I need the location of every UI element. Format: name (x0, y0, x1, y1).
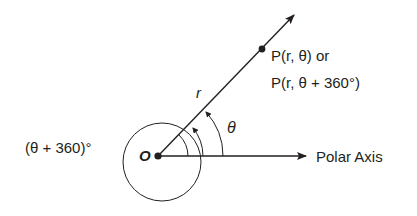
theta-angle-arc (206, 112, 223, 156)
radius-label: r (196, 84, 202, 101)
inner-angle-arc (179, 135, 188, 156)
coterminal-angle-label: (θ + 360)° (25, 139, 91, 156)
coterminal-angle-arc (193, 128, 203, 156)
theta-label: θ (227, 119, 236, 136)
point-label-line2: P(r, θ + 360°) (271, 74, 360, 91)
origin-point (154, 152, 161, 159)
point-label-line1: P(r, θ) or (271, 47, 329, 64)
full-rotation-circle (123, 123, 201, 201)
origin-label: O (139, 147, 151, 164)
polar-axis-label: Polar Axis (316, 148, 383, 165)
polar-coordinate-diagram: O r θ P(r, θ) or P(r, θ + 360°) (θ + 360… (0, 0, 417, 216)
point-p (259, 46, 266, 53)
